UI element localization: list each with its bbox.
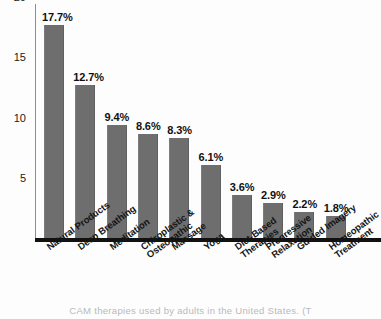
bar-value-label: 8.3% [167, 124, 192, 136]
y-axis-tick-15: 15 [0, 52, 26, 63]
y-axis-tick-labels: 2015105 [0, 0, 33, 241]
bar-value-label: 2.2% [292, 198, 317, 210]
bar-value-label: 8.6% [136, 120, 161, 132]
bar-series: 17.7%12.7%9.4%8.6%8.3%6.1%3.6%2.9%2.2%1.… [35, 0, 381, 241]
bar: 17.7% [44, 25, 64, 238]
y-axis-tick-10: 10 [0, 113, 26, 124]
bar-group: 17.7% [44, 25, 64, 238]
figure-caption: CAM therapies used by adults in the Unit… [0, 305, 381, 316]
y-axis-tick-5: 5 [0, 173, 26, 184]
bar-value-label: 6.1% [199, 151, 224, 163]
y-axis-tick-20: 20 [0, 0, 26, 3]
bar-value-label: 9.4% [105, 111, 130, 123]
x-axis-category-labels: Natural ProductsDeep BreathingMeditation… [35, 242, 381, 304]
bar-value-label: 2.9% [261, 189, 286, 201]
plot-area: 17.7%12.7%9.4%8.6%8.3%6.1%3.6%2.9%2.2%1.… [35, 0, 381, 241]
bar-value-label: 17.7% [42, 11, 73, 23]
bar-value-label: 12.7% [73, 71, 104, 83]
bar-chart: 2015105 17.7%12.7%9.4%8.6%8.3%6.1%3.6%2.… [0, 0, 381, 319]
bar-value-label: 3.6% [230, 181, 255, 193]
